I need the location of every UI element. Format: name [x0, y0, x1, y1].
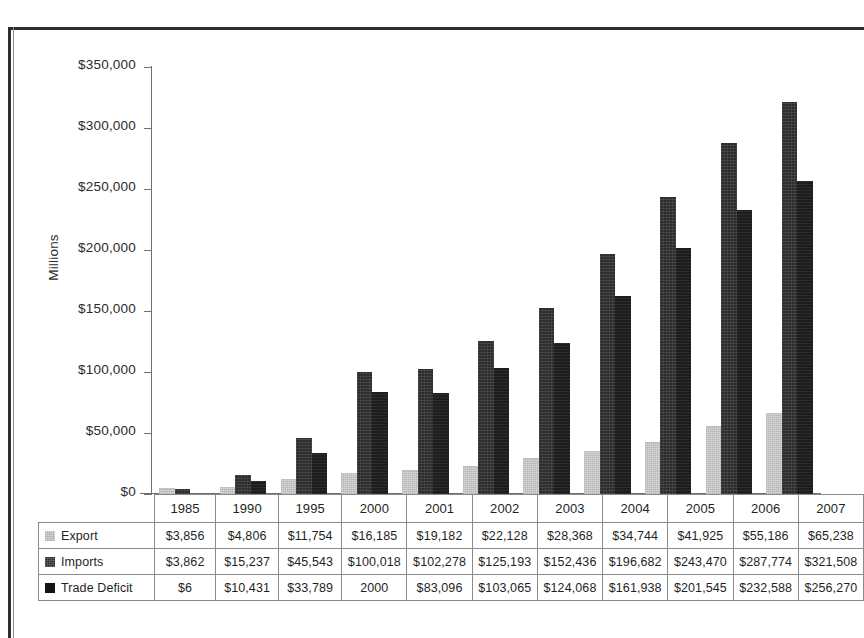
table-cell: $287,774	[733, 549, 798, 575]
table-column-header-1985: 1985	[155, 495, 216, 523]
bar-group	[273, 67, 334, 494]
y-axis-tick-mark	[144, 128, 152, 129]
bar-export	[584, 451, 600, 494]
plot-area	[152, 67, 820, 494]
table-column-header-2003: 2003	[537, 495, 602, 523]
table-column-header-2001: 2001	[407, 495, 472, 523]
table-cell: $103,065	[472, 575, 537, 601]
y-axis-tick-label: $300,000	[78, 118, 136, 133]
bar-trade-deficit	[494, 368, 510, 494]
table-cell: $33,789	[279, 575, 342, 601]
y-axis-tick-mark	[144, 250, 152, 251]
table-column-header-1995: 1995	[279, 495, 342, 523]
bar-export	[523, 458, 539, 494]
bar-group	[213, 67, 274, 494]
bar-imports	[660, 197, 676, 494]
data-table: 1985199019952000200120022003200420052006…	[38, 494, 864, 601]
bar-export	[645, 442, 661, 494]
table-cell: $34,744	[603, 523, 668, 549]
table-cell: $232,588	[733, 575, 798, 601]
table-cell: $100,018	[342, 549, 407, 575]
table-cell: $201,545	[668, 575, 733, 601]
table-cell: $256,270	[798, 575, 863, 601]
table-cell: $152,436	[537, 549, 602, 575]
bar-group	[456, 67, 517, 494]
table-cell: $243,470	[668, 549, 733, 575]
table-cell: $3,856	[155, 523, 216, 549]
bar-trade-deficit	[372, 392, 388, 494]
bar-imports	[782, 102, 798, 494]
bar-group	[577, 67, 638, 494]
bar-trade-deficit	[554, 343, 570, 494]
bar-group	[699, 67, 760, 494]
bar-imports	[235, 475, 251, 494]
y-axis-tick-mark	[144, 189, 152, 190]
bar-imports	[600, 254, 616, 494]
legend-label: Export	[61, 529, 98, 543]
y-axis-title: Millions	[46, 203, 61, 313]
table-column-header-2002: 2002	[472, 495, 537, 523]
table-cell: $15,237	[216, 549, 279, 575]
table-column-header-2000: 2000	[342, 495, 407, 523]
table-cell: $11,754	[279, 523, 342, 549]
table-column-header-2007: 2007	[798, 495, 863, 523]
table-body: Export$3,856$4,806$11,754$16,185$19,182$…	[39, 523, 864, 601]
y-axis-tick-label: $350,000	[78, 57, 136, 72]
y-axis-tick-mark	[144, 433, 152, 434]
legend-item-imports: Imports	[39, 549, 155, 575]
bar-export	[402, 470, 418, 494]
table-cell: $3,862	[155, 549, 216, 575]
y-axis-tick-mark	[144, 67, 152, 68]
table-column-header-2006: 2006	[733, 495, 798, 523]
table-cell: $161,938	[603, 575, 668, 601]
table-cell: $41,925	[668, 523, 733, 549]
bar-group	[334, 67, 395, 494]
y-axis-tick-label: $150,000	[78, 301, 136, 316]
bar-export	[281, 479, 297, 494]
legend-swatch-icon	[45, 583, 55, 593]
bar-group	[516, 67, 577, 494]
table-cell: $125,193	[472, 549, 537, 575]
bar-imports	[539, 308, 555, 494]
table-row: Export$3,856$4,806$11,754$16,185$19,182$…	[39, 523, 864, 549]
y-axis-tick-label: $250,000	[78, 179, 136, 194]
bar-export	[766, 413, 782, 494]
legend-swatch-icon	[45, 557, 55, 567]
bar-group	[152, 67, 213, 494]
table-column-header-2004: 2004	[603, 495, 668, 523]
y-axis-tick-mark	[144, 372, 152, 373]
table-row: Trade Deficit$6$10,431$33,7892000$83,096…	[39, 575, 864, 601]
table-row: Imports$3,862$15,237$45,543$100,018$102,…	[39, 549, 864, 575]
bar-group	[638, 67, 699, 494]
bar-imports	[478, 341, 494, 494]
bar-trade-deficit	[433, 393, 449, 494]
y-axis-tick-label: $50,000	[86, 423, 136, 438]
bar-group	[759, 67, 820, 494]
bar-export	[220, 487, 236, 494]
table-cell: $19,182	[407, 523, 472, 549]
legend-label: Trade Deficit	[61, 581, 133, 595]
table-cell: 2000	[342, 575, 407, 601]
legend-label: Imports	[61, 555, 103, 569]
legend-item-trade-deficit: Trade Deficit	[39, 575, 155, 601]
table-cell: $321,508	[798, 549, 863, 575]
table-cell: $16,185	[342, 523, 407, 549]
bar-trade-deficit	[312, 453, 328, 494]
table-corner-cell	[39, 495, 155, 523]
table-cell: $22,128	[472, 523, 537, 549]
bar-group	[395, 67, 456, 494]
bar-imports	[721, 143, 737, 494]
legend-item-export: Export	[39, 523, 155, 549]
table-cell: $83,096	[407, 575, 472, 601]
bar-export	[706, 426, 722, 494]
table-cell: $65,238	[798, 523, 863, 549]
table-cell: $196,682	[603, 549, 668, 575]
bar-trade-deficit	[251, 481, 267, 494]
bar-trade-deficit	[615, 296, 631, 494]
bar-export	[341, 473, 357, 494]
table-column-header-2005: 2005	[668, 495, 733, 523]
bar-trade-deficit	[797, 181, 813, 494]
table-cell: $28,368	[537, 523, 602, 549]
bar-imports	[296, 438, 312, 494]
bar-trade-deficit	[737, 210, 753, 494]
